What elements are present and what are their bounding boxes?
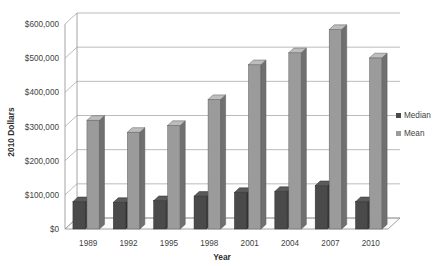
x-axis-title: Year [213,252,231,262]
x-tick-label: 1995 [160,239,179,248]
bar-mean-2001 [248,60,266,229]
x-tick-label: 2007 [321,239,340,248]
x-axis-tick-labels: 19891992199519982001200420072010 [79,239,380,248]
y-tick-label: $600,000 [25,20,60,29]
chart-container: $0$100,000$200,000$300,000$400,000$500,0… [0,0,446,266]
legend-label-median: Median [404,111,431,120]
bar-mean-1995 [168,121,186,229]
bar-chart: $0$100,000$200,000$300,000$400,000$500,0… [0,0,446,266]
legend-swatch-median [396,113,401,118]
bars-layer [73,25,387,229]
bar-mean-2004 [289,48,307,229]
x-tick-label: 1989 [79,239,98,248]
x-tick-label: 2010 [362,239,381,248]
y-axis-tick-labels: $0$100,000$200,000$300,000$400,000$500,0… [25,20,60,234]
legend-label-mean: Mean [404,129,425,138]
y-tick-label: $500,000 [25,54,60,63]
x-tick-label: 2004 [281,239,300,248]
bar-mean-1992 [127,128,145,229]
y-tick-label: $300,000 [25,123,60,132]
y-axis-title: 2010 Dollars [6,107,16,157]
x-tick-label: 1998 [200,239,219,248]
x-tick-label: 1992 [119,239,138,248]
y-tick-label: $400,000 [25,88,60,97]
plot-area [65,13,400,229]
x-tick-label: 2001 [241,239,260,248]
y-tick-label: $0 [50,225,60,234]
chart-legend: MedianMean [396,111,431,138]
bar-mean-2010 [370,53,388,229]
y-tick-label: $100,000 [25,191,60,200]
bar-mean-2007 [329,25,347,229]
legend-swatch-mean [396,131,401,136]
bar-mean-1989 [87,116,105,229]
y-tick-label: $200,000 [25,157,60,166]
bar-mean-1998 [208,95,226,229]
